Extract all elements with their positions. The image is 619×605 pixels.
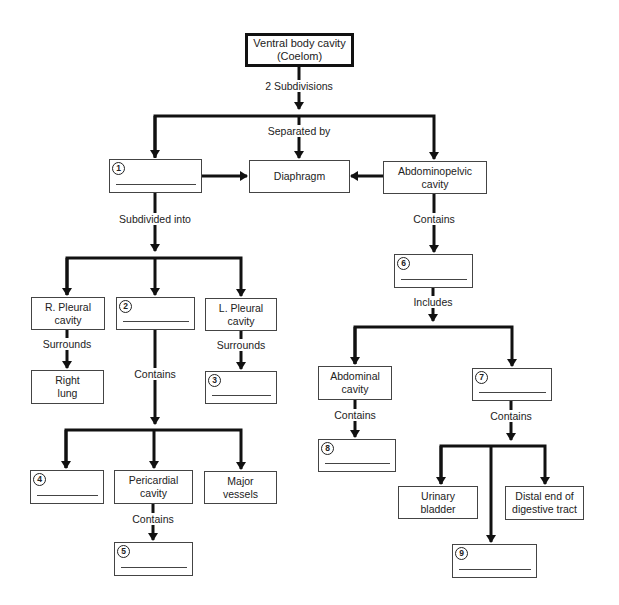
node-pericardial-cavity: Pericardial cavity [114,470,193,504]
answer-line [123,321,189,322]
node-label-line2: cavity [45,314,91,327]
blank-box-3[interactable]: 3 [205,371,277,404]
answer-line [459,569,531,570]
answer-line [401,279,467,280]
blank-box-8[interactable]: 8 [318,439,396,472]
node-label-line1: Ventral body cavity [253,37,345,50]
edge-label-contains-box2: Contains [133,368,176,380]
node-diaphragm: Diaphragm [249,160,350,193]
blank-box-1[interactable]: 1 [109,159,202,193]
node-label-line2: bladder [420,503,455,516]
node-label-line2: digestive tract [512,503,577,516]
number-badge-3: 3 [208,374,221,387]
node-right-lung: Right lung [31,370,104,404]
answer-line [116,184,196,185]
node-label-line2: cavity [330,383,380,396]
node-label-line1: Urinary [420,490,455,503]
number-badge-1: 1 [112,162,125,175]
node-label-line1: Abdominopelvic [398,165,472,178]
edge-label-separated-by: Separated by [267,125,331,137]
answer-line [37,495,98,496]
node-label-line1: Major [223,475,258,488]
blank-box-4[interactable]: 4 [30,470,104,504]
edge-label-contains-pericardial: Contains [131,513,174,525]
answer-line [121,567,187,568]
node-label-line1: Abdominal [330,370,380,383]
edge-label-contains-box7: Contains [489,410,532,422]
number-badge-8: 8 [321,442,334,455]
number-badge-5: 5 [117,545,130,558]
number-badge-7: 7 [475,371,488,384]
blank-box-6[interactable]: 6 [394,254,473,288]
edge-label-2-subdivisions: 2 Subdivisions [264,80,334,92]
node-label-line2: (Coelom) [253,50,345,63]
blank-box-2[interactable]: 2 [116,297,195,330]
node-label-line1: Distal end of [512,490,577,503]
number-badge-6: 6 [397,257,410,270]
blank-box-5[interactable]: 5 [114,542,193,576]
node-label-line2: cavity [129,487,179,500]
node-urinary-bladder: Urinary bladder [398,486,478,519]
answer-line [325,463,390,464]
node-r-pleural-cavity: R. Pleural cavity [31,297,105,330]
node-distal-end-digestive-tract: Distal end of digestive tract [505,486,584,520]
number-badge-4: 4 [33,473,46,486]
node-label-line2: cavity [398,178,472,191]
node-label-line2: cavity [219,315,263,328]
edge-label-surrounds-right: Surrounds [42,338,92,350]
node-label-line2: lung [55,387,80,400]
node-label: Diaphragm [274,170,325,183]
node-label-line1: Right [55,374,80,387]
node-label-line1: L. Pleural [219,302,263,315]
blank-box-7[interactable]: 7 [472,368,552,401]
node-l-pleural-cavity: L. Pleural cavity [205,298,277,331]
number-badge-2: 2 [119,300,132,313]
node-label-line2: vessels [223,488,258,501]
body-cavity-flowchart: 2 Subdivisions Separated by Subdivided i… [0,0,619,605]
edge-label-subdivided-into: Subdivided into [118,213,192,225]
node-abdominal-cavity: Abdominal cavity [318,366,392,400]
edge-label-includes: Includes [412,296,453,308]
number-badge-9: 9 [455,547,468,560]
edge-label-contains-abdominal: Contains [333,409,376,421]
node-ventral-body-cavity: Ventral body cavity (Coelom) [245,33,354,67]
blank-box-9[interactable]: 9 [452,544,537,578]
answer-line [212,395,271,396]
node-abdominopelvic-cavity: Abdominopelvic cavity [383,161,487,194]
edge-label-contains-abdominopelvic: Contains [412,213,455,225]
node-major-vessels: Major vessels [204,471,277,504]
answer-line [479,392,546,393]
node-label-line1: Pericardial [129,474,179,487]
edge-label-surrounds-left: Surrounds [216,339,266,351]
node-label-line1: R. Pleural [45,301,91,314]
